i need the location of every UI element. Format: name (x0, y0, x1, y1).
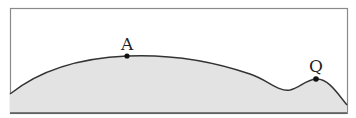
point-q-label: Q (309, 56, 323, 76)
terrain-diagram: A Q (0, 0, 356, 118)
point-a-label: A (120, 34, 134, 54)
point-q-marker (313, 76, 319, 82)
point-a-marker (124, 53, 129, 58)
